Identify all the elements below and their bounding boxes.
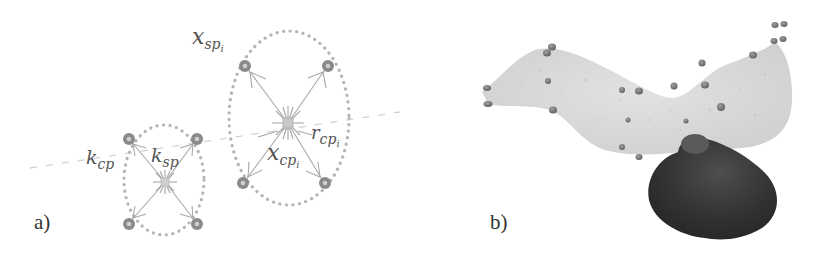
- panel-label-a: a): [34, 210, 50, 235]
- particle-node: [191, 218, 203, 230]
- control-point-large: [283, 118, 293, 128]
- label-k-cp: kcp: [86, 148, 114, 171]
- control-point-small: [161, 178, 169, 186]
- label-k-sp: ksp: [151, 146, 179, 169]
- panel-label-b: b): [490, 210, 508, 235]
- panel-a-schematic: xspi kcp ksp xcpi rcpi a): [0, 0, 410, 257]
- particle-node: [191, 133, 203, 145]
- particle-node: [237, 177, 249, 189]
- membrane-render: [410, 0, 813, 257]
- particle-node: [123, 218, 135, 230]
- label-r-cp-i: rcpi: [311, 124, 340, 149]
- particle-node: [239, 60, 251, 72]
- dark-object-bump: [681, 134, 709, 154]
- particle-node: [319, 177, 331, 189]
- label-x-cp-i: xcpi: [267, 142, 299, 170]
- particle-node: [123, 133, 135, 145]
- membrane-sheet: [482, 42, 792, 154]
- particle-node: [322, 60, 334, 72]
- panel-b-3d-render: b): [410, 0, 813, 257]
- label-x-sp-i: xspi: [192, 26, 224, 54]
